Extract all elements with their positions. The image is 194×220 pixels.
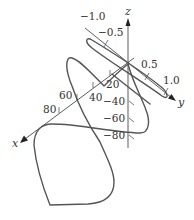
- x-tick-label-60: 60: [59, 89, 72, 101]
- z-tick-label-neg60: −60: [103, 112, 125, 124]
- y-axis-arrow-icon: [168, 94, 176, 101]
- z-axis-label: z: [124, 5, 131, 18]
- y-tick-label-pos05: 0.5: [141, 58, 158, 70]
- z-axis: z: [124, 5, 131, 148]
- y-tick-label-neg05: −0.5: [98, 26, 124, 38]
- x-tick-label-80: 80: [43, 103, 56, 115]
- tick-labels: −1.0 −0.5 0.5 1.0 20 40 60 80 −40 −60 −8…: [43, 10, 180, 141]
- z-tick-label-neg40: −40: [103, 95, 125, 107]
- x-axis-arrow-icon: [20, 136, 28, 144]
- x-tick-label-40: 40: [89, 91, 102, 103]
- y-tick-label-pos1: 1.0: [163, 74, 180, 86]
- x-tick-label-20: 20: [106, 78, 119, 90]
- space-curve-figure: z y x −1.0 −0.5 0.5: [0, 0, 194, 220]
- x-axis-label: x: [12, 137, 19, 150]
- z-axis-arrow-icon: [126, 18, 131, 26]
- y-tick-label-neg1: −1.0: [80, 10, 106, 22]
- y-axis-label: y: [177, 96, 185, 109]
- z-tick-label-neg80: −80: [103, 129, 125, 141]
